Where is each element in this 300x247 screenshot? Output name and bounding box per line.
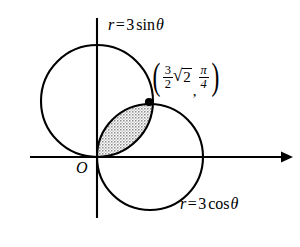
cosine-label-angle: θ: [230, 195, 239, 212]
radical-sign-icon: √: [173, 67, 182, 84]
origin-label: O: [76, 160, 88, 176]
point-label-angle-numerator: π: [199, 64, 209, 77]
cosine-label-function: cos: [206, 195, 229, 212]
cosine-label-equals: =: [186, 195, 198, 212]
point-label-radius-fraction: 3 2: [163, 64, 173, 91]
point-label-radius-denominator: 2: [163, 77, 173, 91]
point-label-close-paren: ): [211, 61, 219, 92]
sine-label-function: sin: [134, 16, 155, 33]
cosine-curve-label: r=3cosθ: [180, 196, 238, 212]
sine-curve-label: r=3sinθ: [108, 17, 164, 33]
sine-label-angle: θ: [155, 16, 164, 33]
sine-label-equals: =: [114, 16, 126, 33]
point-label-angle-denominator: 4: [199, 77, 209, 91]
point-label-radicand: 2: [182, 68, 192, 86]
point-label-angle-fraction: π 4: [199, 64, 209, 91]
point-label-comma: ,: [192, 84, 199, 99]
point-label-radius-numerator: 3: [163, 64, 173, 77]
intersection-point-marker: [145, 98, 153, 106]
point-label-radical: √ 2: [173, 67, 192, 86]
intersection-point-label: ( 3 2 √ 2 , π 4 ): [150, 57, 221, 97]
polar-curves-figure: [0, 0, 300, 247]
point-label-open-paren: (: [152, 61, 160, 92]
